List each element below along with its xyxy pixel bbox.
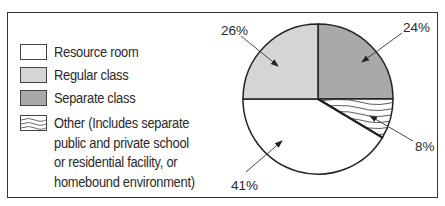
- slice-separate-class: [318, 24, 393, 99]
- pie-chart: 26% 24% 8% 41%: [0, 0, 445, 206]
- label-resource-pct: 41%: [231, 178, 258, 193]
- slice-regular-class: [243, 24, 318, 99]
- label-other-pct: 8%: [415, 139, 435, 154]
- label-regular-pct: 26%: [221, 23, 248, 38]
- label-separate-pct: 24%: [403, 20, 430, 35]
